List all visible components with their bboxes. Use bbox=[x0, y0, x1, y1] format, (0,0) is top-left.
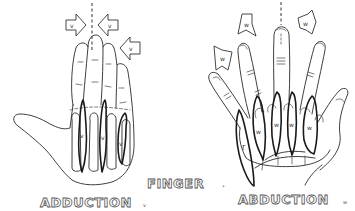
left-hand-adduction: v v v v v v bbox=[14, 3, 140, 185]
muscle-label-v2: v bbox=[101, 134, 105, 141]
adduction-arrow-left: v bbox=[66, 14, 86, 36]
muscle-label-w2: w bbox=[274, 121, 279, 128]
finger-movement-diagram: v v v v v v bbox=[0, 0, 355, 211]
svg-text:w: w bbox=[343, 199, 347, 205]
right-hand-abduction: w w w w r w w w bbox=[209, 2, 348, 186]
label-abduction: ABDUCTION w bbox=[238, 192, 347, 207]
label-finger: FINGER • bbox=[147, 176, 225, 191]
svg-text:v: v bbox=[143, 202, 146, 208]
svg-text:w: w bbox=[220, 55, 225, 62]
knuckle-marks bbox=[70, 60, 130, 110]
svg-text:ABDUCTION: ABDUCTION bbox=[238, 192, 329, 207]
muscle-label-r: r bbox=[242, 143, 246, 152]
label-adduction: ADDUCTION v bbox=[40, 195, 146, 210]
svg-text:w: w bbox=[244, 21, 249, 28]
svg-text:FINGER: FINGER bbox=[147, 176, 204, 191]
abduction-arrow-upper-right: w bbox=[298, 10, 316, 34]
dorsal-interossei-muscles bbox=[236, 92, 317, 186]
muscle-label-w4: w bbox=[307, 124, 312, 131]
adduction-arrow-far-right: v bbox=[120, 37, 140, 60]
adduction-arrow-right: v bbox=[98, 14, 118, 36]
svg-text:•: • bbox=[222, 183, 225, 189]
svg-text:v: v bbox=[108, 22, 112, 29]
muscle-label-v3: v bbox=[119, 140, 123, 147]
muscle-label-w3: w bbox=[289, 121, 294, 128]
svg-text:w: w bbox=[303, 20, 308, 27]
svg-text:ADDUCTION: ADDUCTION bbox=[40, 195, 132, 210]
muscle-label-w1: w bbox=[256, 128, 261, 135]
svg-text:v: v bbox=[70, 22, 74, 29]
abduction-arrow-upper-left: w bbox=[238, 14, 256, 36]
abduction-arrow-left: w bbox=[214, 46, 232, 70]
muscle-label-v1: v bbox=[80, 132, 84, 139]
svg-text:v: v bbox=[129, 45, 133, 52]
